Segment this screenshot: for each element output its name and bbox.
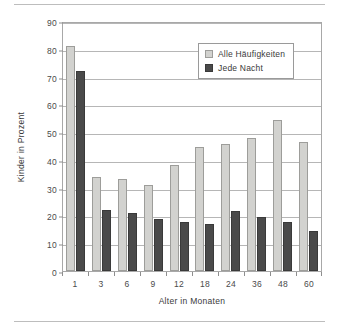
y-axis-tick-label: 60 bbox=[47, 101, 57, 111]
x-axis-tickmark bbox=[192, 272, 193, 276]
bar-1-series-1 bbox=[76, 71, 85, 271]
bar-24-series-1 bbox=[231, 211, 240, 271]
x-axis-tick-label: 6 bbox=[114, 279, 140, 293]
bar-group bbox=[63, 23, 89, 271]
bar-6-series-1 bbox=[128, 213, 137, 271]
y-axis-tick-label: 50 bbox=[47, 129, 57, 139]
bar-18-series-0 bbox=[195, 147, 204, 271]
x-axis-tickmark bbox=[321, 272, 322, 276]
x-axis-tickmark bbox=[114, 272, 115, 276]
x-axis-tick-label: 9 bbox=[140, 279, 166, 293]
x-axis-tick-label: 3 bbox=[88, 279, 114, 293]
x-axis-tickmark bbox=[244, 272, 245, 276]
bar-48-series-0 bbox=[273, 120, 282, 271]
bar-3-series-0 bbox=[92, 177, 101, 271]
y-axis-title-label: Kinder in Prozent bbox=[16, 112, 26, 182]
bar-group bbox=[115, 23, 141, 271]
bar-1-series-0 bbox=[66, 46, 75, 271]
x-axis-title: Alter in Monaten bbox=[62, 296, 322, 306]
x-axis-tick-label: 18 bbox=[192, 279, 218, 293]
x-axis-tick-label: 60 bbox=[296, 279, 322, 293]
bar-48-series-1 bbox=[283, 222, 292, 271]
bar-6-series-0 bbox=[118, 179, 127, 271]
x-axis-tickmark bbox=[140, 272, 141, 276]
bar-60-series-0 bbox=[299, 142, 308, 271]
bar-9-series-1 bbox=[154, 219, 163, 271]
y-axis-tick-label: 30 bbox=[47, 185, 57, 195]
x-axis-tickmark bbox=[218, 272, 219, 276]
bar-60-series-1 bbox=[309, 231, 318, 271]
x-axis-tick-label: 1 bbox=[62, 279, 88, 293]
bar-36-series-1 bbox=[257, 217, 266, 271]
y-axis-tick-label: 20 bbox=[47, 212, 57, 222]
bar-group bbox=[166, 23, 192, 271]
x-axis-tickmark bbox=[62, 272, 63, 276]
x-axis-tickmark bbox=[166, 272, 167, 276]
legend-label-series-0: Alle Häufigkeiten bbox=[218, 49, 285, 59]
y-axis-tick-label: 70 bbox=[47, 74, 57, 84]
bar-24-series-0 bbox=[221, 144, 230, 271]
x-axis-tick-labels: 1369121824364860 bbox=[62, 279, 322, 293]
x-axis-tickmark bbox=[296, 272, 297, 276]
x-axis-tick-label: 24 bbox=[218, 279, 244, 293]
chart-legend: Alle Häufigkeiten Jede Nacht bbox=[198, 43, 294, 79]
bar-12-series-1 bbox=[180, 222, 189, 271]
y-axis-tick-label: 80 bbox=[47, 46, 57, 56]
x-axis-tickmark bbox=[270, 272, 271, 276]
y-axis-tick-label: 0 bbox=[52, 268, 57, 278]
bar-group bbox=[89, 23, 115, 271]
bar-3-series-1 bbox=[102, 210, 111, 271]
bar-18-series-1 bbox=[205, 224, 214, 271]
y-axis-tick-label: 40 bbox=[47, 157, 57, 167]
chart-plot-area: 0102030405060708090 Alle Häufigkeiten Je… bbox=[62, 22, 322, 272]
x-axis-tick-label: 36 bbox=[244, 279, 270, 293]
legend-label-series-1: Jede Nacht bbox=[218, 63, 263, 73]
legend-item-alle-haeufigkeiten: Alle Häufigkeiten bbox=[205, 49, 285, 59]
x-axis-tickmark bbox=[88, 272, 89, 276]
bar-9-series-0 bbox=[144, 185, 153, 271]
x-axis-tick-label: 48 bbox=[270, 279, 296, 293]
legend-swatch-icon-light bbox=[205, 50, 213, 58]
y-axis-tick-label: 90 bbox=[47, 18, 57, 28]
top-divider bbox=[14, 4, 325, 5]
x-axis-tick-label: 12 bbox=[166, 279, 192, 293]
bar-group bbox=[295, 23, 321, 271]
y-axis-tick-label: 10 bbox=[47, 240, 57, 250]
x-axis-tickmarks bbox=[62, 272, 322, 278]
bar-group bbox=[140, 23, 166, 271]
legend-item-jede-nacht: Jede Nacht bbox=[205, 63, 285, 73]
bar-12-series-0 bbox=[170, 165, 179, 271]
y-axis-title: Kinder in Prozent bbox=[14, 22, 28, 272]
legend-swatch-icon-dark bbox=[205, 64, 213, 72]
bottom-divider bbox=[14, 321, 325, 322]
bar-36-series-0 bbox=[247, 138, 256, 271]
